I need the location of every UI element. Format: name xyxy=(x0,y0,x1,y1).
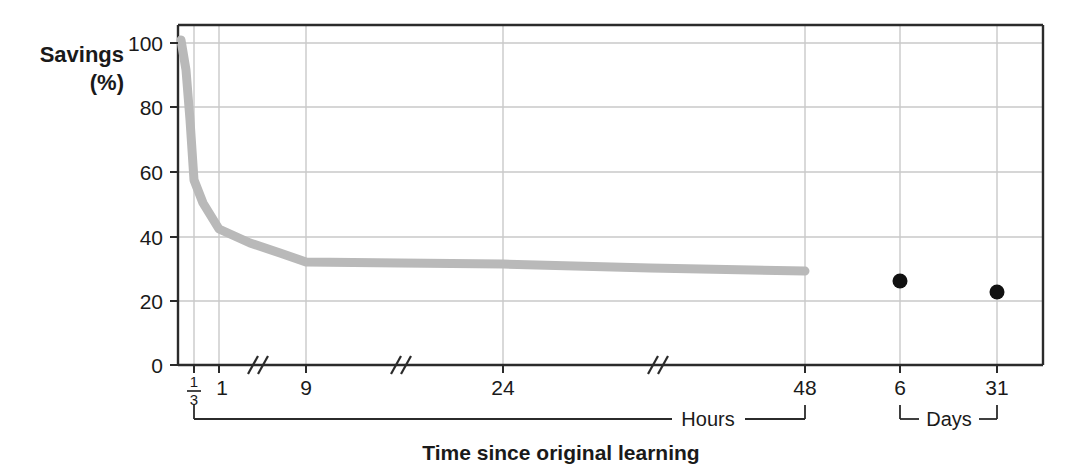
x-tick-label-twentyfour: 24 xyxy=(491,376,515,399)
x-axis-title: Time since original learning xyxy=(422,441,699,464)
fraction-numerator: 1 xyxy=(190,373,198,390)
data-point-day-6 xyxy=(893,274,908,289)
y-tick-label-100: 100 xyxy=(128,32,163,55)
y-tick-label-0: 0 xyxy=(151,354,163,377)
y-tick-label-80: 80 xyxy=(140,96,163,119)
hours-bracket-label: Hours xyxy=(681,408,734,430)
x-tick-label-nine: 9 xyxy=(300,376,312,399)
plot-area-background xyxy=(178,25,1043,365)
y-axis-title-line1: Savings xyxy=(40,42,124,67)
hours-bracket: Hours xyxy=(194,405,805,430)
x-tick-labels: 1 3 1 9 24 48 6 31 xyxy=(187,373,1009,408)
days-bracket: Days xyxy=(900,405,997,430)
x-tick-label-one: 1 xyxy=(216,376,228,399)
y-tick-labels: 100 80 60 40 20 0 xyxy=(128,32,163,377)
y-tick-label-20: 20 xyxy=(140,290,163,313)
chart-canvas: 100 80 60 40 20 0 Savings (%) xyxy=(0,0,1073,472)
x-tick-label-six: 6 xyxy=(894,376,906,399)
data-point-day-31 xyxy=(990,285,1005,300)
days-bracket-label: Days xyxy=(926,408,972,430)
forgetting-curve-figure: 100 80 60 40 20 0 Savings (%) xyxy=(0,0,1073,472)
y-tick-label-40: 40 xyxy=(140,226,163,249)
x-tick-label-fortyeight: 48 xyxy=(793,376,816,399)
x-tick-marks xyxy=(194,365,997,373)
y-tick-label-60: 60 xyxy=(140,161,163,184)
x-tick-label-third: 1 3 xyxy=(187,373,201,408)
y-axis-title: Savings (%) xyxy=(40,42,124,95)
y-axis-title-line2: (%) xyxy=(90,70,124,95)
x-tick-label-thirtyone: 31 xyxy=(985,376,1008,399)
